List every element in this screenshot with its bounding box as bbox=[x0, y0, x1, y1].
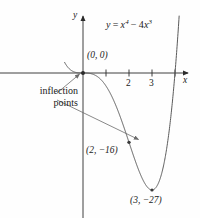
y-axis-label: y bbox=[73, 11, 77, 21]
point-3-label: (3, −27) bbox=[130, 196, 162, 206]
inflection-points-note: inflection points bbox=[0, 85, 78, 108]
figure-container: y x y=x4−4x3 (0, 0) 2 3 inflection point… bbox=[0, 0, 200, 218]
equation-exponent1: 4 bbox=[125, 18, 129, 26]
marked-points bbox=[81, 71, 154, 192]
x-axis-label: x bbox=[183, 76, 187, 86]
equation-label: y=x4−4x3 bbox=[106, 19, 152, 30]
x-tick-label-2: 2 bbox=[126, 79, 131, 89]
function-curve bbox=[65, 16, 180, 190]
x-axis bbox=[0, 70, 188, 77]
point-origin-dot bbox=[81, 71, 85, 75]
point-2-minus16-dot bbox=[127, 141, 130, 144]
point-3-minus27-dot bbox=[150, 188, 153, 191]
curve-path bbox=[65, 16, 180, 190]
x-tick-label-3: 3 bbox=[149, 79, 154, 89]
inflection-note-line-2: points bbox=[0, 97, 78, 109]
plot-svg bbox=[0, 0, 200, 218]
equation-equals: = bbox=[113, 19, 119, 30]
point-2-label: (2, −16) bbox=[86, 146, 118, 156]
equation-lhs: y bbox=[106, 19, 111, 30]
origin-point-label: (0, 0) bbox=[87, 51, 108, 61]
equation-exponent2: 3 bbox=[149, 18, 153, 26]
equation-minus: − bbox=[131, 19, 137, 30]
inflection-note-line-1: inflection bbox=[0, 85, 78, 97]
